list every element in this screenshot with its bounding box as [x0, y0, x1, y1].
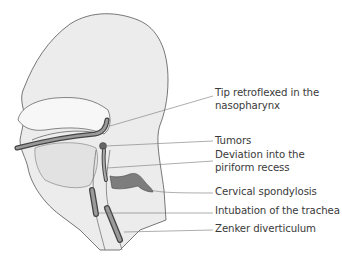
- label-tumors: Tumors: [215, 135, 251, 148]
- label-intubation: Intubation of the trachea: [215, 205, 340, 218]
- label-zenker: Zenker diverticulum: [215, 223, 316, 236]
- label-deviation: Deviation into the piriform recess: [215, 149, 305, 174]
- label-tip-retroflexed: Tip retroflexed in the nasopharynx: [215, 87, 319, 112]
- label-cervical-spondylosis: Cervical spondylosis: [215, 186, 317, 199]
- head-neck-diagram: [0, 0, 342, 256]
